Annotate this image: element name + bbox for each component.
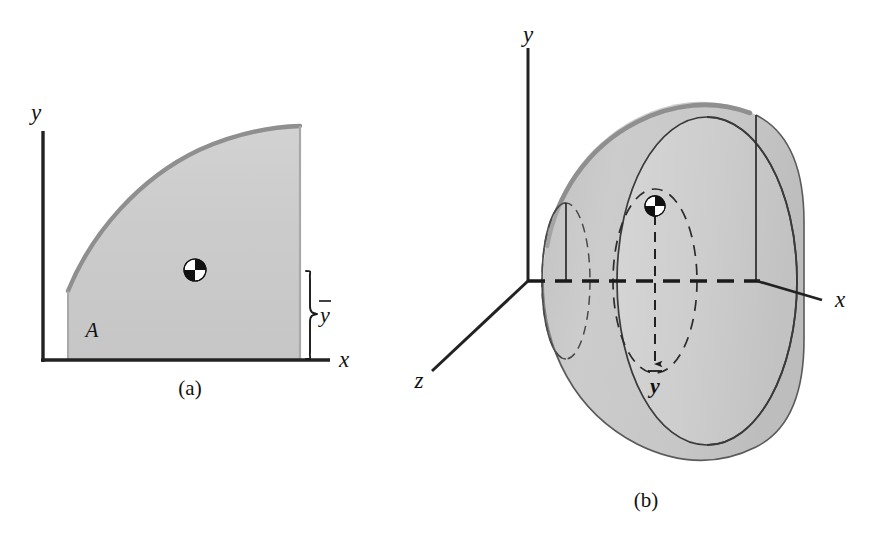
pappus-guldinus-figure: y x A y (a): [0, 0, 878, 541]
panel-b-z-axis-label: z: [414, 368, 424, 393]
panel-a-ybar-text: y: [318, 302, 330, 327]
plane-area-shape: [68, 126, 300, 360]
panel-a-centroid-symbol: [184, 259, 206, 281]
panel-b-centroid-symbol: [645, 196, 665, 216]
panel-b-z-axis: [432, 281, 528, 371]
panel-a-area-label: A: [84, 318, 99, 342]
panel-b-ybar-label: y: [647, 371, 662, 398]
panel-a-y-axis-label: y: [29, 100, 42, 125]
panel-a-ybar-brace: [306, 271, 317, 359]
panel-b: y z x y (b): [414, 22, 846, 512]
panel-b-x-axis-label: x: [834, 287, 846, 312]
panel-a-x-axis-label: x: [338, 347, 350, 372]
panel-a-caption: (a): [178, 376, 201, 400]
panel-b-caption: (b): [634, 488, 659, 512]
panel-b-y-axis-label: y: [521, 22, 534, 47]
panel-a-ybar-label: y: [318, 301, 331, 327]
figure-root: y x A y (a): [0, 0, 878, 541]
panel-a: y x A y (a): [29, 100, 350, 400]
